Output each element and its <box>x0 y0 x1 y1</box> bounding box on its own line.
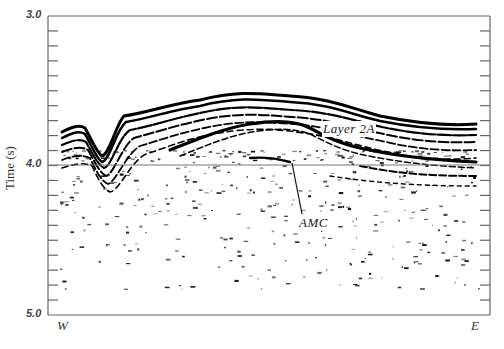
seismic-plot <box>0 0 504 349</box>
y-tick-5.0: 5.0 <box>26 307 41 319</box>
x-label-west: W <box>57 318 68 334</box>
seismic-noise <box>60 150 480 290</box>
annotation-amc: AMC <box>298 215 329 231</box>
seismic-reflectors <box>62 94 476 193</box>
y-tick-4.0: 4.0 <box>26 157 41 169</box>
seismic-figure: 3.0 4.0 5.0 Time (s) W E Layer 2A AMC <box>0 0 504 349</box>
x-label-east: E <box>471 318 479 334</box>
y-tick-3.0: 3.0 <box>26 8 41 20</box>
amc-leader-line <box>292 163 302 214</box>
annotation-layer-2a: Layer 2A <box>322 121 376 137</box>
y-axis-title: Time (s) <box>2 146 18 190</box>
